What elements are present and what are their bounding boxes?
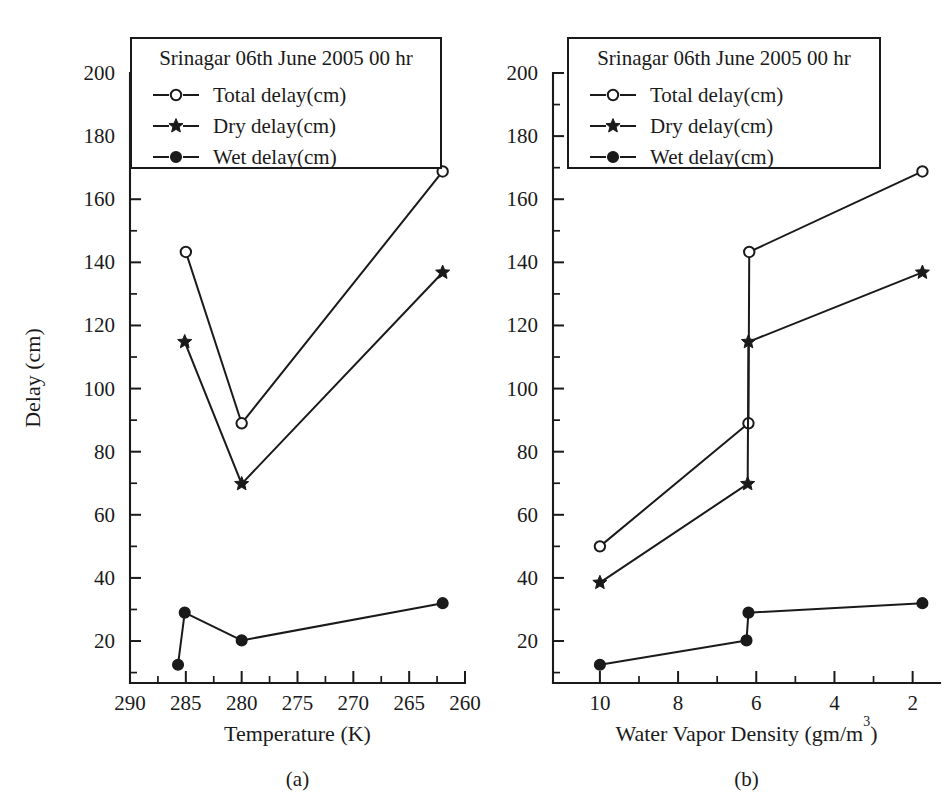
legend-label: Wet delay(cm) <box>650 145 774 169</box>
y-tick-label: 100 <box>507 377 539 401</box>
y-tick-label: 40 <box>517 566 538 590</box>
series-1 <box>595 166 928 551</box>
x-tick-label: 265 <box>393 691 425 715</box>
x-tick-label: 285 <box>170 691 202 715</box>
y-tick-label: 120 <box>84 313 116 337</box>
legend-label: Total delay(cm) <box>213 83 346 107</box>
legend-marker-open-circle <box>171 90 181 100</box>
panel-label: (a) <box>286 767 309 791</box>
legend-title: Srinagar 06th June 2005 00 hr <box>597 46 851 70</box>
x-tick-label: 280 <box>226 691 258 715</box>
chart-svg-a: 2040608010012014016018020029028528027527… <box>0 0 476 805</box>
y-tick-label: 180 <box>84 124 116 148</box>
y-tick-label: 80 <box>94 440 115 464</box>
marker-star <box>593 575 607 588</box>
legend-title: Srinagar 06th June 2005 00 hr <box>159 46 413 70</box>
x-tick-label: 8 <box>673 691 684 715</box>
chart-svg-b: 20406080100120140160180200108642Water Va… <box>476 0 952 805</box>
series-3 <box>173 598 448 670</box>
series-group <box>593 166 930 670</box>
y-tick-label: 80 <box>517 440 538 464</box>
marker-filled-circle <box>595 659 606 670</box>
series-line <box>600 272 923 582</box>
series-line <box>178 603 443 665</box>
y-tick-label: 200 <box>84 61 116 85</box>
marker-open-circle <box>744 247 754 257</box>
legend-label: Wet delay(cm) <box>213 145 337 169</box>
legend-label: Total delay(cm) <box>650 83 783 107</box>
y-tick-label: 140 <box>84 250 116 274</box>
chart-panel-a: 2040608010012014016018020029028528027527… <box>0 0 476 805</box>
x-axis-title: Temperature (K) <box>224 721 371 746</box>
marker-filled-circle <box>437 598 448 609</box>
series-line <box>600 171 923 546</box>
legend: Srinagar 06th June 2005 00 hrTotal delay… <box>131 38 441 169</box>
legend-label: Dry delay(cm) <box>213 114 336 138</box>
x-tick-label: 6 <box>751 691 762 715</box>
x-tick-label: 275 <box>282 691 314 715</box>
series-2 <box>178 265 450 490</box>
x-tick-label: 2 <box>907 691 918 715</box>
marker-open-circle <box>595 541 605 551</box>
marker-star <box>915 265 929 278</box>
figure-container: 2040608010012014016018020029028528027527… <box>0 0 952 805</box>
marker-star <box>178 334 192 347</box>
marker-filled-circle <box>917 598 928 609</box>
series-group <box>173 166 450 670</box>
y-tick-label: 60 <box>517 503 538 527</box>
y-tick-label: 100 <box>84 377 116 401</box>
x-tick-label: 290 <box>114 691 146 715</box>
series-1 <box>181 166 448 428</box>
marker-open-circle <box>236 418 246 428</box>
legend-marker-filled-circle <box>608 152 619 163</box>
y-tick-label: 20 <box>94 629 115 653</box>
y-tick-label: 160 <box>84 187 116 211</box>
marker-filled-circle <box>743 607 754 618</box>
series-2 <box>593 265 930 589</box>
series-line <box>600 603 923 665</box>
y-tick-label: 60 <box>94 503 115 527</box>
series-line <box>186 171 443 423</box>
y-tick-label: 200 <box>507 61 539 85</box>
marker-filled-circle <box>179 607 190 618</box>
y-tick-label: 120 <box>507 313 539 337</box>
series-line <box>185 272 443 483</box>
legend: Srinagar 06th June 2005 00 hrTotal delay… <box>568 38 880 169</box>
marker-open-circle <box>917 166 927 176</box>
x-tick-label: 4 <box>829 691 840 715</box>
y-tick-label: 160 <box>507 187 539 211</box>
y-tick-label: 180 <box>507 124 539 148</box>
marker-open-circle <box>181 247 191 257</box>
chart-panel-b: 20406080100120140160180200108642Water Va… <box>476 0 952 805</box>
y-axis-title: Delay (cm) <box>20 328 45 428</box>
series-3 <box>595 598 928 670</box>
y-tick-label: 20 <box>517 629 538 653</box>
legend-label: Dry delay(cm) <box>650 114 773 138</box>
x-tick-label: 10 <box>589 691 610 715</box>
legend-marker-open-circle <box>608 90 618 100</box>
x-axis-title: Water Vapor Density (gm/m3) <box>615 714 877 747</box>
marker-filled-circle <box>236 635 247 646</box>
y-tick-label: 40 <box>94 566 115 590</box>
x-tick-label: 270 <box>338 691 370 715</box>
y-tick-label: 140 <box>507 250 539 274</box>
marker-filled-circle <box>173 659 184 670</box>
panel-label: (b) <box>734 767 759 791</box>
marker-filled-circle <box>741 635 752 646</box>
legend-marker-filled-circle <box>171 152 182 163</box>
